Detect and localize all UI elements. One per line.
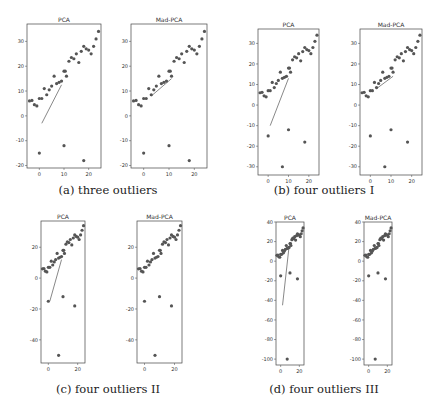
svg-text:-20: -20 (247, 143, 255, 149)
svg-text:0: 0 (143, 366, 146, 372)
svg-text:30: 30 (18, 38, 24, 44)
svg-text:-100: -100 (350, 356, 361, 362)
svg-text:30: 30 (122, 38, 128, 44)
svg-text:-30: -30 (247, 163, 255, 169)
svg-text:-30: -30 (349, 163, 357, 169)
subplot-c-pca: PCA020-40-20020 (41, 221, 85, 363)
subplot-b-pca: PCA01020-30-20-100102030 (258, 29, 319, 175)
svg-text:-10: -10 (120, 137, 128, 143)
subplot-d-pca: PCA020-100-80-60-40-2002040 (276, 222, 304, 365)
svg-text:30: 30 (249, 40, 255, 46)
svg-text:20: 20 (18, 63, 24, 69)
svg-text:-40: -40 (126, 337, 134, 343)
svg-text:-10: -10 (349, 122, 357, 128)
svg-text:-20: -20 (265, 277, 273, 283)
subplot-a-pca: PCA01020-20-100102030 (27, 24, 101, 168)
svg-text:-100: -100 (262, 356, 273, 362)
svg-text:Mad-PCA: Mad-PCA (156, 16, 184, 23)
svg-text:0: 0 (125, 113, 128, 119)
svg-text:10: 10 (18, 88, 24, 94)
svg-text:10: 10 (166, 171, 172, 177)
svg-text:PCA: PCA (284, 214, 297, 221)
svg-text:Mad-PCA: Mad-PCA (146, 213, 174, 220)
svg-text:20: 20 (171, 366, 177, 372)
svg-text:20: 20 (384, 368, 390, 374)
svg-text:Mad-PCA: Mad-PCA (365, 214, 393, 221)
svg-text:-20: -20 (30, 306, 38, 312)
svg-text:0: 0 (38, 171, 41, 177)
svg-text:20: 20 (249, 61, 255, 67)
svg-text:10: 10 (61, 171, 67, 177)
svg-text:-40: -40 (30, 337, 38, 343)
svg-text:PCA: PCA (283, 21, 296, 28)
svg-text:0: 0 (47, 366, 50, 372)
svg-text:-20: -20 (349, 143, 357, 149)
caption-b: (b) four outliers I (216, 183, 432, 197)
svg-text:0: 0 (358, 258, 361, 264)
svg-text:-20: -20 (16, 162, 24, 168)
svg-text:0: 0 (367, 368, 370, 374)
svg-text:10: 10 (249, 81, 255, 87)
svg-text:30: 30 (351, 40, 357, 46)
svg-text:40: 40 (267, 219, 273, 225)
svg-text:-60: -60 (265, 317, 273, 323)
caption-a: (a) three outliers (0, 183, 216, 197)
svg-text:0: 0 (142, 171, 145, 177)
svg-text:0: 0 (21, 113, 24, 119)
svg-text:20: 20 (267, 238, 273, 244)
svg-text:0: 0 (354, 102, 357, 108)
svg-text:0: 0 (279, 368, 282, 374)
subplot-a-mad-pca: Mad-PCA01020-20-100102030 (131, 24, 207, 168)
svg-text:-40: -40 (265, 297, 273, 303)
svg-text:-20: -20 (120, 162, 128, 168)
caption-d: (d) four outliers III (216, 382, 432, 396)
svg-text:20: 20 (122, 63, 128, 69)
subplot-d-mad-pca: Mad-PCA020-100-80-60-40-2002040 (364, 222, 392, 365)
svg-text:20: 20 (191, 171, 197, 177)
svg-text:PCA: PCA (57, 213, 70, 220)
svg-text:20: 20 (32, 244, 38, 250)
svg-text:0: 0 (131, 275, 134, 281)
svg-text:20: 20 (355, 238, 361, 244)
svg-text:-20: -20 (353, 277, 361, 283)
svg-text:10: 10 (351, 81, 357, 87)
svg-text:20: 20 (128, 244, 134, 250)
svg-text:0: 0 (35, 275, 38, 281)
svg-text:-20: -20 (126, 306, 134, 312)
caption-c: (c) four outliers II (0, 382, 216, 396)
svg-text:0: 0 (252, 102, 255, 108)
svg-text:20: 20 (85, 171, 91, 177)
svg-text:-80: -80 (265, 336, 273, 342)
subplot-c-mad-pca: Mad-PCA020-40-20020 (137, 221, 182, 363)
svg-text:40: 40 (355, 219, 361, 225)
svg-text:-80: -80 (353, 336, 361, 342)
svg-text:20: 20 (351, 61, 357, 67)
svg-text:0: 0 (270, 258, 273, 264)
svg-text:-60: -60 (353, 317, 361, 323)
svg-text:-40: -40 (353, 297, 361, 303)
svg-text:20: 20 (74, 366, 80, 372)
svg-text:-10: -10 (16, 137, 24, 143)
subplot-b-mad-pca: Mad-PCA01020-30-20-100102030 (360, 29, 422, 175)
svg-text:20: 20 (296, 368, 302, 374)
svg-text:PCA: PCA (58, 16, 71, 23)
svg-text:Mad-PCA: Mad-PCA (378, 21, 406, 28)
svg-text:-10: -10 (247, 122, 255, 128)
svg-text:10: 10 (122, 88, 128, 94)
